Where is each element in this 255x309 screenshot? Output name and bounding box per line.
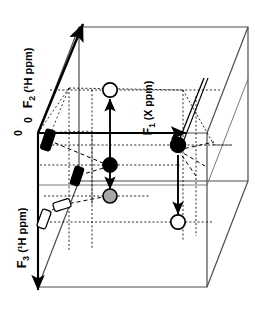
cube-wireframe [38, 27, 248, 287]
axis-label-F3-units: (¹H ppm) [16, 207, 28, 256]
projection-filled-mid [70, 166, 85, 187]
projection-markers [36, 128, 84, 229]
axis-label-F2: F2 (¹H ppm) [21, 47, 37, 108]
axis-diagram-svg: 0 0 F2 (¹H ppm) F1 (X ppm) F3 (¹H ppm) [0, 0, 255, 309]
projection-open-mid [52, 198, 71, 212]
axis-line-F2 [38, 24, 83, 133]
peak-open-lower-right [171, 215, 185, 229]
projection-filled-upper [40, 128, 56, 151]
cube-edge-br [207, 181, 248, 287]
axis-label-F3: F3 (¹H ppm) [15, 207, 31, 268]
svg-text:F2 (¹H ppm): F2 (¹H ppm) [21, 47, 37, 108]
svg-text:F1 (X ppm): F1 (X ppm) [141, 81, 157, 135]
axis-label-F1-units: (X ppm) [142, 81, 154, 123]
peak-gray-lower [103, 189, 117, 203]
figure-canvas: 0 0 F2 (¹H ppm) F1 (X ppm) F3 (¹H ppm) [0, 0, 255, 309]
diagonal-to-right-peak-2 [180, 78, 208, 150]
origin-zero-lower: 0 [12, 130, 24, 136]
cube-edge-tr [207, 27, 248, 133]
axis-label-F1: F1 (X ppm) [141, 81, 157, 135]
axis-label-F2-units: (¹H ppm) [22, 47, 34, 96]
origin-zero-upper: 0 [22, 117, 34, 123]
inner-plane-right-edge [207, 79, 248, 185]
cube-back-face [79, 27, 248, 181]
svg-text:F3 (¹H ppm): F3 (¹H ppm) [15, 207, 31, 268]
ray-right-peak-c [178, 150, 196, 176]
peak-filled-right [170, 137, 185, 152]
peak-filled-left [103, 158, 117, 172]
axis-label-F1-main: F [141, 128, 155, 135]
cube-edge-bl [38, 181, 79, 287]
ray-right-peak-a [178, 150, 205, 166]
dotted-guide-lines [40, 88, 232, 250]
peak-open-upper [103, 83, 117, 97]
